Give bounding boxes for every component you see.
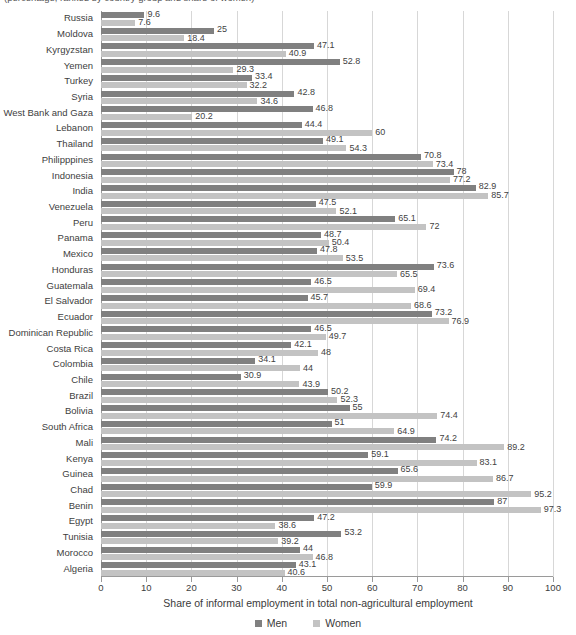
bar-value-women: 53.5 — [346, 254, 364, 263]
bar-value-men: 49.1 — [326, 135, 344, 144]
bar-value-women: 85.7 — [491, 191, 509, 200]
category-label: Lebanon — [56, 123, 93, 133]
bar-value-men: 46.8 — [316, 104, 334, 113]
bar-men[interactable] — [101, 405, 350, 411]
bar-women[interactable] — [101, 114, 192, 120]
bar-men[interactable] — [101, 499, 494, 505]
bar-women[interactable] — [101, 35, 184, 41]
category-label: Thailand — [57, 139, 93, 149]
bar-group: 70.873.4 — [101, 153, 553, 169]
bar-women[interactable] — [101, 523, 275, 529]
bar-men[interactable] — [101, 185, 476, 191]
bar-group: 45.768.6 — [101, 294, 553, 310]
bar-men[interactable] — [101, 326, 311, 332]
bar-men[interactable] — [101, 169, 454, 175]
bar-women[interactable] — [101, 51, 286, 57]
bar-women[interactable] — [101, 303, 411, 309]
bar-women[interactable] — [101, 444, 504, 450]
bar-value-men: 73.2 — [435, 308, 453, 317]
bar-women[interactable] — [101, 365, 300, 371]
bar-women[interactable] — [101, 413, 437, 419]
category-label: Colombia — [53, 359, 93, 369]
tick-label-20: 20 — [186, 582, 197, 593]
bar-women[interactable] — [101, 67, 233, 73]
category-label: Bolivia — [65, 406, 93, 416]
bar-men[interactable] — [101, 358, 255, 364]
bar-women[interactable] — [101, 554, 313, 560]
bar-men[interactable] — [101, 562, 296, 568]
bar-women[interactable] — [101, 145, 346, 151]
bar-women[interactable] — [101, 20, 135, 26]
bar-men[interactable] — [101, 75, 252, 81]
bar-men[interactable] — [101, 547, 300, 553]
legend-label-men: Men — [267, 617, 287, 629]
bar-men[interactable] — [101, 154, 421, 160]
bar-women[interactable] — [101, 350, 318, 356]
bar-group: 52.829.3 — [101, 58, 553, 74]
bar-women[interactable] — [101, 224, 426, 230]
bar-group: 53.239.2 — [101, 530, 553, 546]
bar-women[interactable] — [101, 208, 336, 214]
bar-value-women: 72 — [429, 222, 439, 231]
bar-value-women: 38.6 — [278, 521, 296, 530]
bar-men[interactable] — [101, 216, 395, 222]
bar-women[interactable] — [101, 161, 433, 167]
tick-label-60: 60 — [367, 582, 378, 593]
bar-women[interactable] — [101, 193, 488, 199]
bar-women[interactable] — [101, 381, 299, 387]
bar-men[interactable] — [101, 138, 323, 144]
category-label: Turkey — [64, 76, 93, 86]
bar-value-women: 65.5 — [400, 270, 418, 279]
bar-men[interactable] — [101, 43, 314, 49]
bar-men[interactable] — [101, 295, 308, 301]
bar-men[interactable] — [101, 452, 368, 458]
bar-value-women: 74.4 — [440, 411, 458, 420]
bar-value-men: 65.6 — [401, 465, 419, 474]
bar-women[interactable] — [101, 460, 477, 466]
bar-men[interactable] — [101, 531, 341, 537]
bar-women[interactable] — [101, 570, 285, 576]
bar-women[interactable] — [101, 476, 493, 482]
legend-swatch-men — [255, 620, 262, 627]
bar-women[interactable] — [101, 318, 449, 324]
bar-women[interactable] — [101, 271, 397, 277]
bar-women[interactable] — [101, 491, 531, 497]
bar-men[interactable] — [101, 342, 291, 348]
bar-women[interactable] — [101, 98, 257, 104]
bar-women[interactable] — [101, 82, 247, 88]
bar-women[interactable] — [101, 428, 394, 434]
bar-men[interactable] — [101, 122, 302, 128]
bar-women[interactable] — [101, 177, 450, 183]
bar-group: 50.252.3 — [101, 388, 553, 404]
bar-men[interactable] — [101, 232, 321, 238]
bar-men[interactable] — [101, 264, 434, 270]
category-label: Moldova — [57, 29, 93, 39]
bar-value-men: 45.7 — [311, 293, 329, 302]
category-label: Venezuela — [49, 202, 93, 212]
bar-women[interactable] — [101, 397, 337, 403]
bar-men[interactable] — [101, 468, 398, 474]
bar-men[interactable] — [101, 279, 311, 285]
bar-men[interactable] — [101, 421, 332, 427]
bar-men[interactable] — [101, 311, 432, 317]
bar-value-women: 60 — [375, 128, 385, 137]
bar-women[interactable] — [101, 287, 415, 293]
bar-value-women: 40.6 — [288, 568, 306, 577]
bar-men[interactable] — [101, 59, 340, 65]
gridline-100 — [553, 11, 554, 577]
bar-women[interactable] — [101, 334, 326, 340]
bar-women[interactable] — [101, 255, 343, 261]
bar-men[interactable] — [101, 437, 436, 443]
bar-value-men: 74.2 — [439, 434, 457, 443]
bar-men[interactable] — [101, 248, 317, 254]
bar-group: 47.552.1 — [101, 200, 553, 216]
bar-men[interactable] — [101, 484, 372, 490]
bar-women[interactable] — [101, 538, 278, 544]
bar-value-men: 52.8 — [343, 57, 361, 66]
bar-women[interactable] — [101, 240, 329, 246]
bar-value-men: 25 — [217, 25, 227, 34]
bar-men[interactable] — [101, 374, 241, 380]
bar-value-men: 53.2 — [344, 528, 362, 537]
bar-men[interactable] — [101, 201, 316, 207]
bar-men[interactable] — [101, 389, 328, 395]
